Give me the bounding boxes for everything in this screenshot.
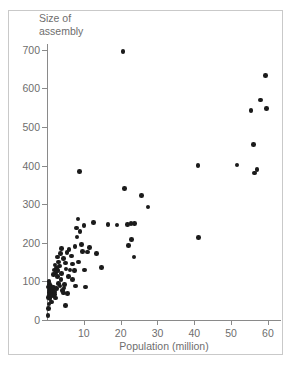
- y-tick-label: 200: [22, 238, 40, 249]
- data-point: [251, 142, 256, 147]
- y-tick-label: 600: [22, 83, 40, 94]
- data-point: [70, 262, 75, 267]
- data-point: [53, 296, 58, 301]
- y-tick-label: 100: [22, 276, 40, 287]
- data-point: [235, 163, 240, 168]
- y-tick-mark: [42, 127, 47, 128]
- data-point: [196, 163, 201, 168]
- data-point: [82, 223, 87, 228]
- data-point: [132, 221, 137, 226]
- data-point: [126, 243, 131, 248]
- data-point: [73, 284, 78, 289]
- data-point: [258, 98, 263, 103]
- y-tick-label: 700: [22, 45, 40, 56]
- x-tick-label: 10: [78, 328, 90, 339]
- data-point: [82, 268, 87, 273]
- data-point: [122, 186, 127, 191]
- data-point: [76, 217, 81, 222]
- data-point: [77, 169, 82, 174]
- data-point: [63, 261, 68, 266]
- y-tick-mark: [42, 88, 47, 89]
- data-point: [87, 245, 92, 250]
- data-point: [65, 291, 70, 296]
- data-point: [78, 229, 83, 234]
- x-tick-label: 20: [115, 328, 127, 339]
- y-tick-label: 0: [34, 315, 40, 326]
- y-tick-mark: [42, 204, 47, 205]
- data-point: [80, 249, 85, 254]
- data-point: [106, 222, 111, 227]
- data-point: [249, 108, 254, 113]
- data-point: [46, 306, 51, 311]
- x-tick-mark: [194, 320, 195, 325]
- x-tick-mark: [121, 320, 122, 325]
- y-tick-label: 500: [22, 122, 40, 133]
- data-point: [99, 265, 104, 270]
- data-point: [59, 277, 64, 282]
- plot-area: 0100200300400500600700 102030405060: [47, 44, 279, 320]
- data-point: [49, 300, 54, 305]
- data-point: [70, 277, 75, 282]
- data-point: [69, 254, 74, 259]
- data-point: [115, 223, 120, 228]
- data-point: [61, 256, 66, 261]
- x-tick-mark: [231, 320, 232, 325]
- x-tick-mark: [268, 320, 269, 325]
- data-point: [196, 235, 201, 240]
- x-tick-label: 60: [262, 328, 274, 339]
- data-point: [75, 235, 80, 240]
- x-axis-line: [47, 320, 281, 321]
- data-point: [59, 271, 64, 276]
- y-tick-label: 300: [22, 199, 40, 210]
- data-point: [76, 260, 81, 265]
- x-axis-title: Population (million): [47, 341, 281, 352]
- y-tick-mark: [42, 243, 47, 244]
- data-point: [72, 268, 77, 273]
- y-tick-mark: [42, 50, 47, 51]
- data-point: [67, 247, 72, 252]
- scatter-chart-figure: Size of assembly 0100200300400500600700 …: [0, 0, 292, 365]
- x-tick-mark: [84, 320, 85, 325]
- data-point: [62, 282, 67, 287]
- data-point: [132, 255, 137, 260]
- x-tick-label: 50: [225, 328, 237, 339]
- data-point: [59, 246, 64, 251]
- y-tick-mark: [42, 320, 47, 321]
- y-tick-label: 400: [22, 160, 40, 171]
- data-point: [85, 250, 90, 255]
- y-axis-title: Size of assembly: [39, 12, 83, 39]
- data-point: [91, 220, 96, 225]
- data-point: [255, 167, 260, 172]
- data-point: [264, 106, 269, 111]
- data-point: [79, 242, 84, 247]
- x-tick-label: 30: [152, 328, 164, 339]
- data-point: [63, 303, 68, 308]
- data-point: [57, 264, 62, 269]
- data-point: [94, 251, 99, 256]
- data-point: [47, 279, 52, 284]
- data-point: [146, 205, 151, 210]
- x-tick-mark: [157, 320, 158, 325]
- data-point: [46, 313, 51, 318]
- x-tick-label: 40: [188, 328, 200, 339]
- data-point: [263, 73, 268, 78]
- data-point: [73, 244, 78, 249]
- data-point: [139, 193, 144, 198]
- y-tick-mark: [42, 166, 47, 167]
- data-point: [83, 285, 88, 290]
- data-point: [129, 237, 134, 242]
- data-point: [121, 49, 126, 54]
